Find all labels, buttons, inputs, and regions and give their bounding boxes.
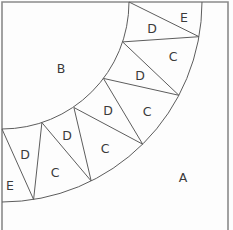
region-label-d-5: D bbox=[135, 68, 145, 83]
region-label-d-9: D bbox=[62, 128, 72, 143]
region-label-d-7: D bbox=[103, 103, 113, 118]
region-label-a-1: A bbox=[179, 170, 188, 185]
region-label-d-3: D bbox=[147, 21, 157, 36]
region-label-c-8: C bbox=[101, 141, 110, 156]
quilt-template-figure: BAEDCDCDCDCDE bbox=[0, 0, 233, 230]
region-label-e-2: E bbox=[180, 10, 188, 25]
region-label-e-12: E bbox=[6, 178, 14, 193]
region-label-c-6: C bbox=[143, 104, 152, 119]
diagram-stage: BAEDCDCDCDCDE bbox=[0, 0, 233, 230]
region-label-b-0: B bbox=[57, 61, 66, 76]
figure-background bbox=[0, 0, 233, 230]
region-label-d-11: D bbox=[20, 147, 30, 162]
region-label-c-4: C bbox=[169, 49, 178, 64]
region-label-c-10: C bbox=[51, 165, 60, 180]
